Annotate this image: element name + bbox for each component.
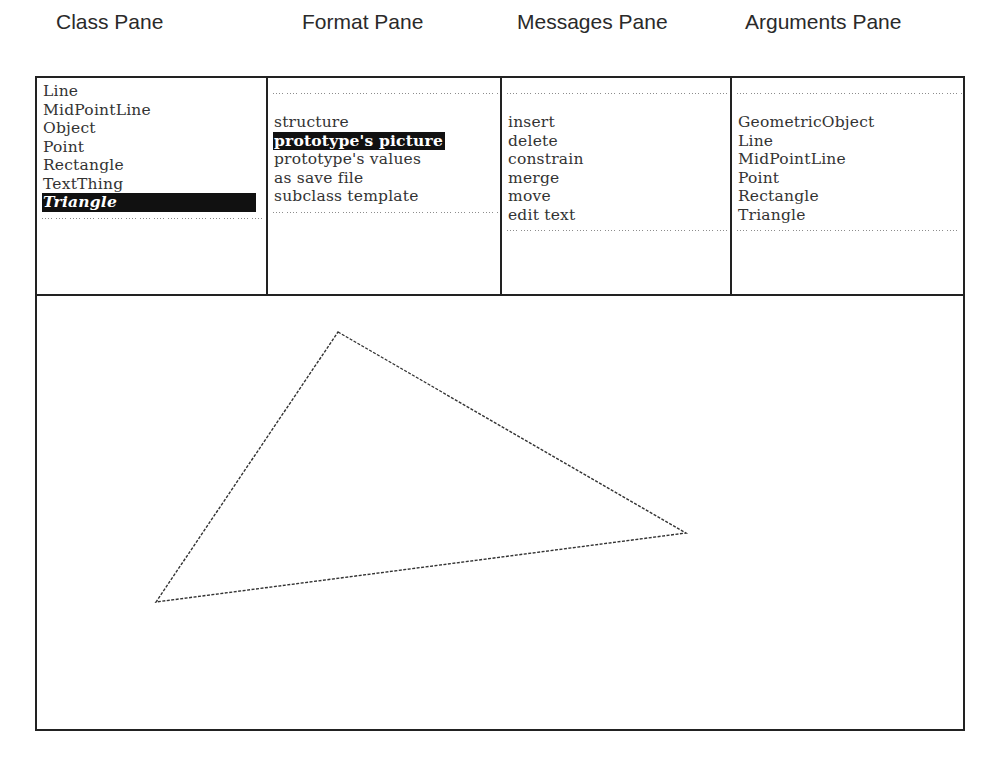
list-end-separator (42, 215, 264, 221)
list-end-separator (737, 227, 961, 233)
messages-list: insert delete constrain merge move edit … (507, 113, 728, 236)
list-start-separator (273, 90, 500, 96)
triangle-shape[interactable] (156, 332, 686, 602)
argument-item-line[interactable]: Line (737, 132, 961, 151)
message-item-delete[interactable]: delete (507, 132, 728, 151)
argument-item-point[interactable]: Point (737, 169, 961, 188)
argument-item-geometricobject[interactable]: GeometricObject (737, 113, 961, 132)
message-item-merge[interactable]: merge (507, 169, 728, 188)
format-item-structure[interactable]: structure (273, 113, 498, 132)
argument-item-midpointline[interactable]: MidPointLine (737, 150, 961, 169)
list-start-separator (507, 90, 730, 96)
message-item-constrain[interactable]: constrain (507, 150, 728, 169)
class-item-point[interactable]: Point (42, 138, 264, 157)
format-item-prototypes-picture-selected[interactable]: prototype's picture (273, 132, 445, 151)
message-item-move[interactable]: move (507, 187, 728, 206)
format-list: structure prototype's picture prototype'… (273, 113, 498, 218)
class-item-rectangle[interactable]: Rectangle (42, 156, 264, 175)
list-end-separator (273, 209, 498, 215)
class-item-textthing[interactable]: TextThing (42, 175, 264, 194)
message-item-insert[interactable]: insert (507, 113, 728, 132)
format-pane-caption: Format Pane (302, 10, 423, 34)
argument-item-rectangle[interactable]: Rectangle (737, 187, 961, 206)
pane-row: Line MidPointLine Object Point Rectangle… (37, 78, 963, 296)
format-item-subclass-template[interactable]: subclass template (273, 187, 498, 206)
class-pane-caption: Class Pane (56, 10, 163, 34)
browser-window: Line MidPointLine Object Point Rectangle… (35, 76, 965, 731)
format-item-prototypes-values[interactable]: prototype's values (273, 150, 498, 169)
arguments-list: GeometricObject Line MidPointLine Point … (737, 113, 961, 236)
argument-item-triangle[interactable]: Triangle (737, 206, 961, 225)
message-item-edit-text[interactable]: edit text (507, 206, 728, 225)
format-pane[interactable]: structure prototype's picture prototype'… (266, 78, 500, 294)
messages-pane-caption: Messages Pane (517, 10, 668, 34)
arguments-pane[interactable]: GeometricObject Line MidPointLine Point … (730, 78, 963, 294)
format-item-as-save-file[interactable]: as save file (273, 169, 498, 188)
class-item-object[interactable]: Object (42, 119, 264, 138)
list-end-separator (507, 227, 728, 233)
class-pane[interactable]: Line MidPointLine Object Point Rectangle… (37, 78, 266, 294)
list-start-separator (737, 90, 963, 96)
class-item-midpointline[interactable]: MidPointLine (42, 101, 264, 120)
arguments-pane-caption: Arguments Pane (745, 10, 901, 34)
picture-canvas[interactable] (37, 296, 963, 729)
class-item-triangle-selected[interactable]: Triangle (42, 193, 256, 212)
triangle-drawing (37, 296, 963, 729)
class-item-line[interactable]: Line (42, 82, 264, 101)
class-list: Line MidPointLine Object Point Rectangle… (42, 82, 264, 224)
messages-pane[interactable]: insert delete constrain merge move edit … (500, 78, 730, 294)
